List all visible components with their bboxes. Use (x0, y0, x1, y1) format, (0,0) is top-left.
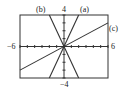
y-max-label: 4 (62, 6, 66, 14)
x-max-label: 6 (111, 43, 115, 51)
series-label-b: (b) (36, 6, 45, 14)
x-min-label: −6 (7, 43, 16, 51)
series-label-a: (a) (80, 6, 89, 14)
y-min-label: −4 (60, 81, 69, 89)
series-label-c: (c) (109, 25, 118, 33)
